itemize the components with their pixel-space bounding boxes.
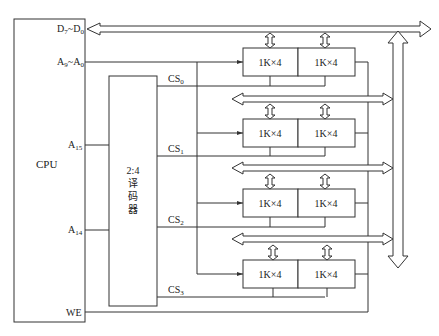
bidirectional-arrow-icon bbox=[268, 245, 278, 260]
vertical-data-bus-arrow bbox=[388, 31, 408, 268]
arrowhead-icon bbox=[237, 201, 243, 205]
arrowhead-icon bbox=[237, 60, 243, 64]
bidirectional-arrow-icon bbox=[265, 33, 275, 48]
memory-expansion-diagram: CPU D7~D0 A9~A0 A15 A14 WE 2:4 译 码 器 CS0… bbox=[0, 0, 439, 336]
arrowhead-icon bbox=[237, 131, 243, 135]
memory-group-1: 1K×4 1K×4 bbox=[243, 33, 368, 86]
decoder-label-4: 器 bbox=[128, 204, 138, 215]
chip-label: 1K×4 bbox=[315, 269, 338, 280]
chip-label: 1K×4 bbox=[315, 128, 338, 139]
decoder-label-2: 译 bbox=[128, 178, 138, 189]
bidirectional-arrow-icon bbox=[265, 104, 275, 119]
chip-label: 1K×4 bbox=[259, 269, 282, 280]
data-bus-branch-arrow bbox=[232, 162, 393, 174]
chip-label: 1K×4 bbox=[315, 198, 338, 209]
cpu-label: CPU bbox=[36, 158, 57, 170]
cs0-label: CS0 bbox=[168, 73, 184, 86]
memory-group-4: 1K×4 1K×4 bbox=[243, 245, 368, 297]
decoder-label-1: 2:4 bbox=[127, 165, 140, 176]
memory-group-3: 1K×4 1K×4 bbox=[243, 174, 368, 227]
data-bus-arrow bbox=[87, 21, 431, 37]
data-bus-branch-arrow bbox=[232, 93, 393, 105]
cs2-label: CS2 bbox=[168, 214, 184, 227]
arrowhead-icon bbox=[237, 272, 243, 276]
bidirectional-arrow-icon bbox=[320, 104, 330, 119]
chip-label: 1K×4 bbox=[259, 128, 282, 139]
bidirectional-arrow-icon bbox=[265, 174, 275, 189]
bidirectional-arrow-icon bbox=[320, 33, 330, 48]
chip-label: 1K×4 bbox=[259, 57, 282, 68]
chip-label: 1K×4 bbox=[259, 198, 282, 209]
memory-group-2: 1K×4 1K×4 bbox=[243, 104, 368, 156]
chip-label: 1K×4 bbox=[315, 57, 338, 68]
bidirectional-arrow-icon bbox=[320, 174, 330, 189]
cs3-label: CS3 bbox=[168, 284, 184, 297]
pin-we: WE bbox=[66, 307, 82, 318]
cs1-label: CS1 bbox=[168, 143, 184, 156]
data-bus-branch-arrow bbox=[232, 233, 393, 245]
bidirectional-arrow-icon bbox=[322, 245, 332, 260]
decoder-label-3: 码 bbox=[128, 191, 138, 202]
